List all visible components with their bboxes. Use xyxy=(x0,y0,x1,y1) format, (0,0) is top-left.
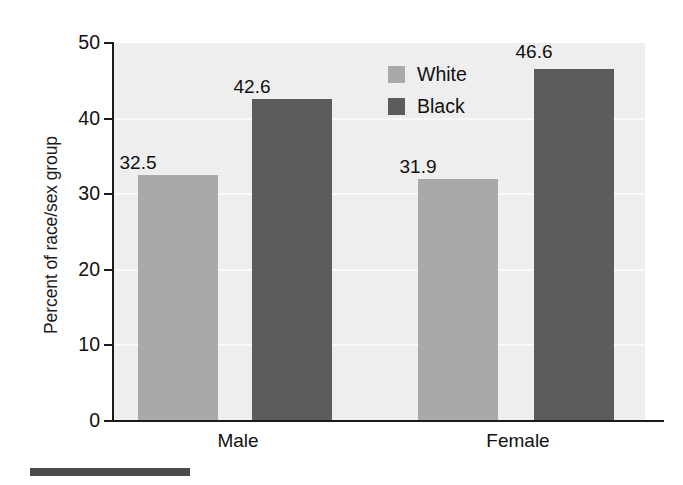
y-axis-line xyxy=(112,42,114,421)
bar-male-white[interactable] xyxy=(138,175,218,420)
legend-item-black[interactable]: Black xyxy=(388,90,538,122)
y-tick-mark-50 xyxy=(104,42,113,44)
y-tick-label-40: 40 xyxy=(60,106,100,130)
y-tick-label-20: 20 xyxy=(60,257,100,281)
plot-area: White Black xyxy=(113,43,645,420)
legend: White Black xyxy=(388,58,538,122)
bar-value-female-black: 46.6 xyxy=(494,41,574,63)
y-tick-label-10: 10 xyxy=(60,332,100,356)
y-tick-mark-20 xyxy=(104,269,113,271)
y-tick-mark-40 xyxy=(104,118,113,120)
legend-swatch-white-icon xyxy=(388,66,405,83)
bar-value-male-white: 32.5 xyxy=(98,152,178,174)
y-axis-title: Percent of race/sex group xyxy=(34,20,68,450)
chart-figure: Percent of race/sex group White Black 32… xyxy=(0,0,683,485)
y-tick-mark-30 xyxy=(104,193,113,195)
y-tick-mark-0 xyxy=(104,420,113,422)
bar-value-male-black: 42.6 xyxy=(212,76,292,98)
y-tick-label-0: 0 xyxy=(60,408,100,432)
legend-swatch-black-icon xyxy=(388,98,405,115)
y-tick-label-30: 30 xyxy=(60,181,100,205)
x-category-label-male: Male xyxy=(148,430,328,452)
x-axis-line xyxy=(104,420,664,422)
y-tick-label-50: 50 xyxy=(60,30,100,54)
bar-male-black[interactable] xyxy=(252,99,332,420)
bar-female-black[interactable] xyxy=(534,69,614,420)
legend-label-white: White xyxy=(417,63,467,86)
bar-female-white[interactable] xyxy=(418,179,498,420)
bar-value-female-white: 31.9 xyxy=(378,156,458,178)
page-rule-artifact xyxy=(30,468,190,476)
y-tick-mark-10 xyxy=(104,344,113,346)
legend-label-black: Black xyxy=(417,95,465,118)
x-category-label-female: Female xyxy=(428,430,608,452)
